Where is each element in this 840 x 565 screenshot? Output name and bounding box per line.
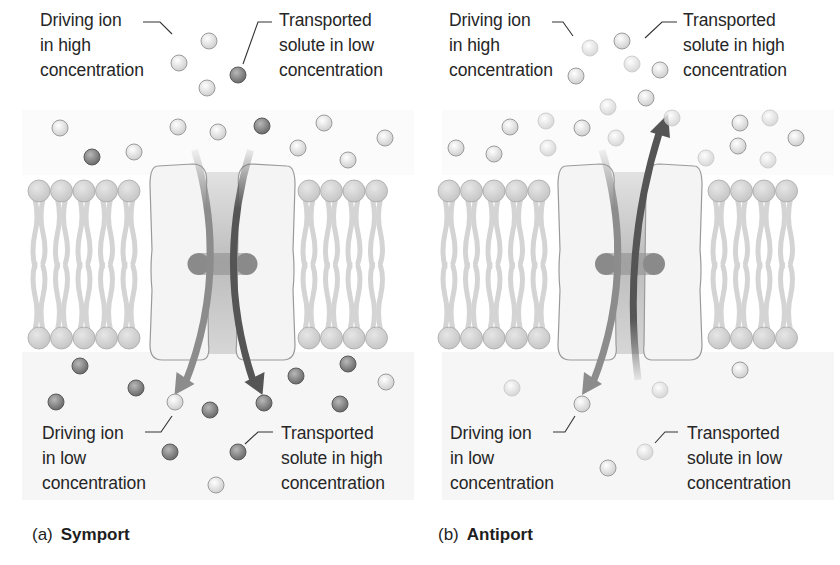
label-solute-high: Transported solute in high concentration — [683, 8, 787, 83]
panel-symport: Driving ion in high concentration Transp… — [0, 0, 420, 565]
transporter-protein — [150, 164, 295, 360]
label-driving-ion-high: Driving ion in high concentration — [40, 8, 144, 83]
label-solute-low: Transported solute in low concentration — [279, 8, 383, 83]
caption-symport: (a)Symport — [32, 525, 130, 545]
transporter-protein — [558, 164, 702, 360]
label-driving-ion-high: Driving ion in high concentration — [449, 8, 553, 83]
label-driving-ion-low: Driving ion in low concentration — [450, 421, 554, 496]
label-solute-low: Transported solute in low concentration — [687, 421, 791, 496]
label-driving-ion-low: Driving ion in low concentration — [42, 421, 146, 496]
panel-antiport: Driving ion in high concentration Transp… — [420, 0, 840, 565]
label-solute-high: Transported solute in high concentration — [281, 421, 385, 496]
caption-tag: (b) — [438, 525, 459, 544]
caption-tag: (a) — [32, 525, 53, 544]
caption-name: Symport — [61, 525, 130, 544]
caption-antiport: (b)Antiport — [438, 525, 533, 545]
caption-name: Antiport — [467, 525, 533, 544]
